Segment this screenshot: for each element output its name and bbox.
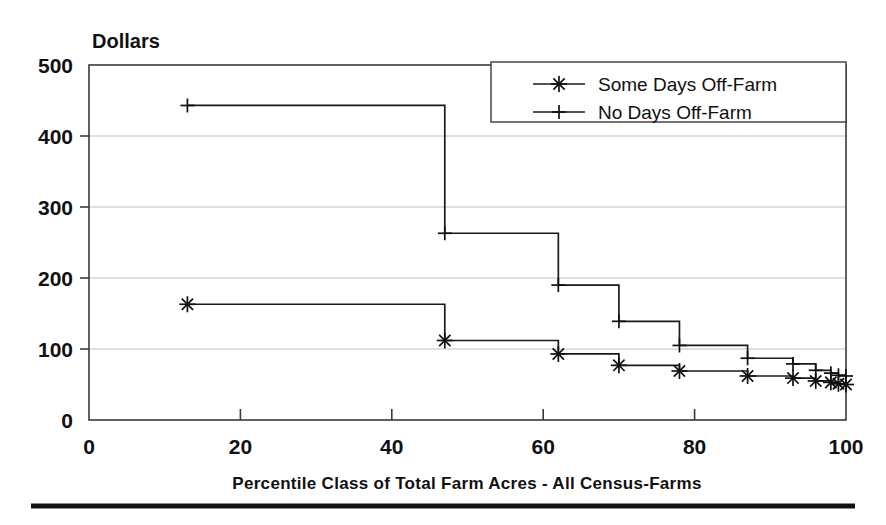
y-tick-label-300: 300 (38, 196, 73, 219)
data-point-1-4 (671, 363, 687, 379)
y-tick-label-400: 400 (38, 125, 73, 148)
chart-canvas: 0100200300400500 020406080100 Dollars So… (0, 0, 886, 525)
data-point-1-6 (785, 370, 801, 386)
data-point-1-1 (437, 332, 453, 348)
legend-label-2: No Days Off-Farm (598, 102, 752, 123)
legend-marker-asterisk (551, 76, 567, 92)
x-tick-label-40: 40 (380, 435, 403, 458)
y-tick-label-500: 500 (38, 54, 73, 77)
y-tick-label-200: 200 (38, 267, 73, 290)
y-tick-label-0: 0 (61, 409, 73, 432)
data-point-1-0 (179, 296, 195, 312)
data-point-1-5 (740, 368, 756, 384)
data-point-1-3 (611, 357, 627, 373)
x-tick-label-0: 0 (83, 435, 95, 458)
y-axis-title: Dollars (92, 30, 160, 52)
y-tick-label-100: 100 (38, 338, 73, 361)
x-axis-title: Percentile Class of Total Farm Acres - A… (232, 474, 701, 493)
x-tick-label-60: 60 (532, 435, 555, 458)
figure-container: 0100200300400500 020406080100 Dollars So… (0, 0, 886, 525)
x-tick-label-20: 20 (229, 435, 252, 458)
data-point-1-2 (550, 346, 566, 362)
legend-label-1: Some Days Off-Farm (598, 74, 777, 95)
x-tick-label-80: 80 (683, 435, 706, 458)
x-tick-label-100: 100 (828, 435, 863, 458)
